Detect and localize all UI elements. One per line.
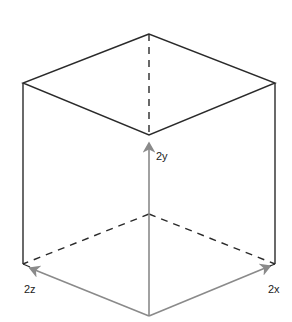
z-axis-label: 2z [24, 283, 36, 295]
cube-diagram [0, 0, 292, 322]
y-axis-label: 2y [156, 150, 168, 162]
x-axis-arrow [149, 266, 270, 316]
z-axis-arrow [30, 268, 149, 316]
x-axis-label: 2x [268, 283, 280, 295]
axis-arrows [30, 143, 270, 316]
